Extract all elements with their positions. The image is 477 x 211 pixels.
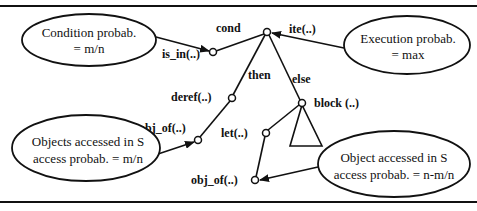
execution-line1: Execution probab. [360,31,455,46]
tree-diagram: ite(..) cond is_in(..) then else deref(.… [0,0,477,211]
node-ite [264,29,271,36]
node-obj-of-bottom [252,177,259,184]
ellipse-condition [22,14,156,66]
arrow-object-right [260,167,318,180]
node-deref [229,95,236,102]
objects-left-line2: access probab. = m/n [33,151,143,166]
edge-let-objof [256,136,265,177]
label-ite: ite(..) [289,22,316,36]
subtree-triangle [290,105,322,146]
label-block: block (..) [314,96,359,110]
object-right-line2: access probab. = n-m/n [334,167,455,182]
condition-line1: Condition probab. [42,25,137,40]
node-block [299,100,306,107]
label-else: else [292,72,311,86]
label-cond: cond [216,21,241,35]
execution-line2: = max [392,47,425,62]
edge-else [269,35,300,100]
edge-block-let [268,105,299,130]
objects-left-line1: Objects accessed in S [32,134,144,149]
edge-cond [216,34,264,51]
condition-line2: = m/n [74,41,105,56]
node-let [263,130,270,137]
label-then: then [248,68,271,82]
label-let: let(..) [221,126,248,140]
label-is-in: is_in(..) [162,47,200,61]
arrow-objects-left [158,142,194,154]
node-is-in [210,49,217,56]
label-deref: deref(..) [171,90,211,104]
object-right-line1: Object accessed in S [340,150,447,165]
node-obj-of-left [195,137,202,144]
label-obj-of-bottom: obj_of(..) [191,173,238,187]
